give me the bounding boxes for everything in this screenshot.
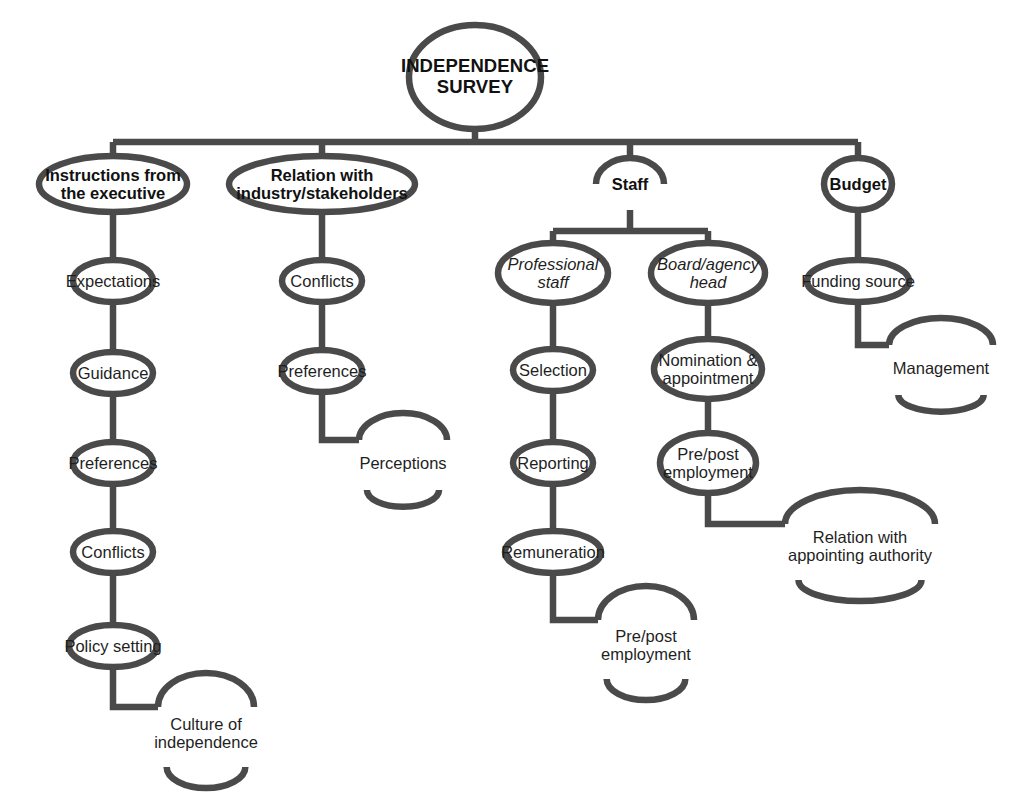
- node-bottom-arc-perceptions: [367, 490, 439, 507]
- node-label-conflicts-2: Conflicts: [290, 272, 353, 290]
- node-label-prepost-2: Pre/post employment: [663, 445, 753, 482]
- tree-connectors-svg: [0, 0, 1032, 798]
- node-label-professional-staff: Professional staff: [508, 255, 599, 292]
- node-label-preferences-2: Preferences: [278, 362, 367, 380]
- node-label-instructions: Instructions from the executive: [45, 166, 181, 203]
- node-label-funding-source: Funding source: [801, 272, 915, 290]
- node-label-perceptions: Perceptions: [359, 454, 446, 472]
- node-label-relation-industry: Relation with industry/stakeholders: [236, 166, 407, 203]
- elbow-prepost-2-relation-appointing: [708, 491, 785, 524]
- node-label-culture: Culture of independence: [154, 715, 258, 752]
- node-bottom-arc-culture: [167, 767, 246, 788]
- elbow-policy-setting-culture: [113, 665, 158, 707]
- node-label-nomination: Nomination & appointment: [658, 351, 757, 388]
- node-label-policy-setting: Policy setting: [64, 637, 161, 655]
- node-label-guidance: Guidance: [78, 364, 149, 382]
- node-bottom-arc-relation-appointing: [799, 580, 922, 601]
- node-label-management: Management: [893, 359, 989, 377]
- node-top-arc-perceptions: [359, 413, 447, 440]
- node-label-root: INDEPENDENCE SURVEY: [401, 56, 549, 97]
- node-label-relation-appointing: Relation with appointing authority: [788, 528, 932, 565]
- node-bottom-arc-prepost-1: [607, 679, 686, 700]
- elbow-funding-source-management: [858, 300, 889, 345]
- node-label-board-agency-head: Board/agency head: [657, 255, 759, 292]
- node-label-expectations: Expectations: [66, 272, 160, 290]
- node-top-arc-prepost-1: [598, 586, 694, 620]
- node-label-preferences-1: Preferences: [69, 454, 158, 472]
- node-top-arc-culture: [158, 673, 254, 707]
- node-label-conflicts-1: Conflicts: [81, 543, 144, 561]
- node-label-selection: Selection: [519, 361, 587, 379]
- node-top-arc-management: [889, 318, 993, 345]
- elbow-preferences-2-perceptions: [322, 390, 359, 440]
- node-label-staff: Staff: [612, 175, 649, 193]
- node-label-budget: Budget: [830, 175, 887, 193]
- tree-diagram: INDEPENDENCE SURVEYInstructions from the…: [0, 0, 1032, 798]
- node-label-remuneration: Remuneration: [501, 543, 605, 561]
- node-label-prepost-1: Pre/post employment: [601, 627, 691, 664]
- node-bottom-arc-management: [898, 395, 983, 412]
- node-top-arc-relation-appointing: [785, 490, 935, 524]
- elbow-remuneration-prepost-1: [553, 571, 598, 620]
- node-label-reporting: Reporting: [517, 454, 589, 472]
